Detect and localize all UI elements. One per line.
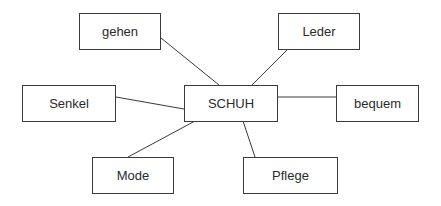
node-senkel: Senkel [22, 85, 116, 122]
node-label: bequem [354, 96, 401, 111]
node-gehen: gehen [79, 13, 161, 50]
node-label: Leder [302, 24, 335, 39]
edge-schuh-gehen [161, 38, 219, 85]
node-leder: Leder [278, 13, 360, 50]
node-schuh-center: SCHUH [184, 85, 278, 122]
node-label: Pflege [272, 168, 309, 183]
edge-schuh-senkel [116, 97, 184, 109]
node-label: Senkel [49, 96, 89, 111]
edge-schuh-leder [252, 49, 288, 85]
node-bequem: bequem [336, 85, 419, 122]
edge-schuh-mode [128, 121, 195, 157]
node-label: SCHUH [208, 96, 254, 111]
node-pflege: Pflege [243, 157, 338, 194]
node-label: Mode [117, 168, 150, 183]
node-mode: Mode [92, 157, 174, 194]
edge-schuh-pflege [243, 121, 255, 157]
node-label: gehen [102, 24, 138, 39]
